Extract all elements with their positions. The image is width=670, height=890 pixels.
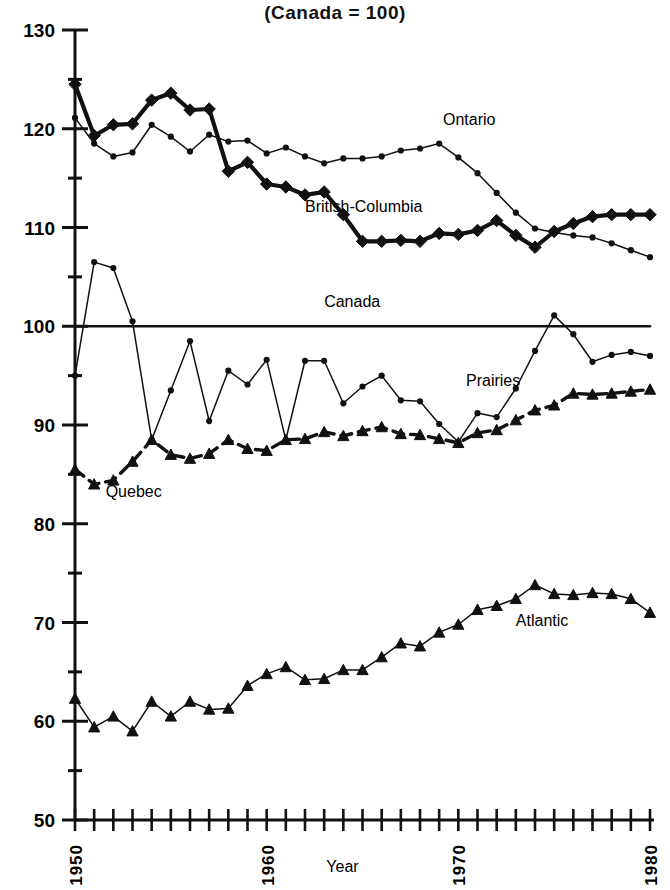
data-point (567, 217, 579, 229)
data-point (609, 240, 615, 246)
data-point (225, 138, 231, 144)
data-point (529, 579, 540, 589)
data-point (264, 150, 270, 156)
data-point (395, 234, 407, 246)
data-point (321, 160, 327, 166)
data-point (359, 383, 365, 389)
data-point (359, 155, 365, 161)
data-point (452, 228, 464, 240)
series-line (75, 262, 650, 442)
series-british-columbia: British-Columbia (69, 78, 656, 253)
data-point (127, 726, 138, 736)
data-point (91, 140, 97, 146)
data-point (280, 661, 291, 671)
series-label-british-columbia: British-Columbia (305, 198, 422, 215)
data-point (110, 265, 116, 271)
data-point (398, 147, 404, 153)
series-canada: Canada (75, 293, 650, 326)
data-point (280, 181, 292, 193)
y-tick-label: 70 (34, 613, 55, 634)
data-point (340, 400, 346, 406)
y-tick-label: 50 (34, 810, 55, 831)
data-point (586, 210, 598, 222)
data-point (261, 668, 272, 678)
data-point (609, 352, 615, 358)
data-point (376, 651, 387, 661)
data-point (436, 140, 442, 146)
data-point (340, 155, 346, 161)
data-point (551, 312, 557, 318)
y-tick-label: 80 (34, 514, 55, 535)
x-tick-label: 1950 (67, 844, 86, 886)
data-point (379, 373, 385, 379)
data-point (302, 358, 308, 364)
data-point (474, 170, 480, 176)
data-point (206, 132, 212, 138)
data-point (91, 259, 97, 265)
data-point (244, 381, 250, 387)
series-label-canada: Canada (324, 293, 380, 310)
series-label-quebec: Quebec (106, 483, 162, 500)
data-point (570, 232, 576, 238)
data-point (644, 384, 655, 394)
data-point (474, 410, 480, 416)
series-prairies: Prairies (72, 259, 653, 445)
data-point (108, 711, 119, 721)
data-point (628, 349, 634, 355)
data-point (436, 421, 442, 427)
data-point (110, 153, 116, 159)
y-tick-label: 100 (23, 316, 55, 337)
data-point (433, 227, 445, 239)
data-point (589, 359, 595, 365)
data-point (225, 368, 231, 374)
data-point (375, 235, 387, 247)
x-tick-label: 1980 (642, 844, 661, 886)
data-point (628, 247, 634, 253)
data-point (513, 210, 519, 216)
data-point (644, 607, 655, 617)
data-point (129, 149, 135, 155)
chart-root: Average Earnings (Canada = 100) 13012011… (0, 0, 670, 890)
data-point (551, 229, 557, 235)
y-tick-label: 90 (34, 415, 55, 436)
series-line (75, 390, 650, 485)
data-point (434, 627, 445, 637)
data-point (532, 348, 538, 354)
data-point (149, 122, 155, 128)
data-point (89, 722, 100, 732)
data-point (494, 414, 500, 420)
data-point (168, 387, 174, 393)
series-label-ontario: Ontario (443, 111, 496, 128)
data-point (72, 373, 78, 379)
y-tick-label: 120 (23, 119, 55, 140)
data-point (223, 434, 234, 444)
y-tick-label: 130 (23, 20, 55, 41)
data-point (625, 208, 637, 220)
data-point (510, 593, 521, 603)
x-axis-title: Year (326, 858, 359, 875)
data-point (129, 318, 135, 324)
data-point (414, 235, 426, 247)
data-point (398, 397, 404, 403)
data-point (532, 225, 538, 231)
series-line (75, 585, 650, 731)
data-point (491, 600, 502, 610)
data-point (605, 208, 617, 220)
data-point (184, 696, 195, 706)
data-point (453, 619, 464, 629)
axes: 13012011010090807060501950196019701980Ye… (23, 20, 661, 886)
series-quebec: Quebec (69, 384, 655, 500)
data-point (242, 680, 253, 690)
x-tick-label: 1970 (450, 844, 469, 886)
data-point (69, 693, 80, 703)
data-point (589, 234, 595, 240)
data-point (321, 358, 327, 364)
series-line (75, 84, 650, 247)
data-point (395, 638, 406, 648)
series-label-prairies: Prairies (466, 372, 520, 389)
data-point (644, 208, 656, 220)
data-point (417, 145, 423, 151)
data-point (283, 144, 289, 150)
series-label-atlantic: Atlantic (516, 612, 568, 629)
x-tick-label: 1960 (259, 844, 278, 886)
